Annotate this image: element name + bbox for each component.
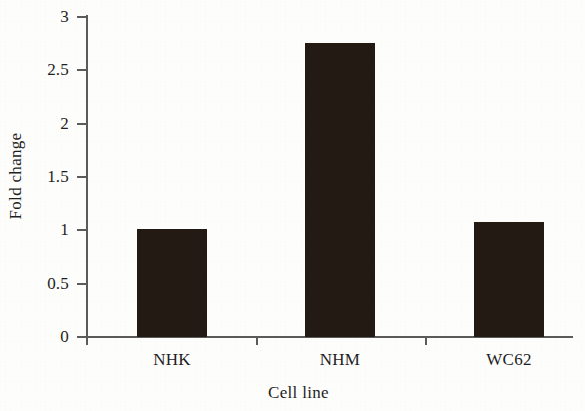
x-axis-title: Cell line: [6, 383, 585, 403]
bar-nhk: [137, 229, 207, 337]
x-axis-label-nhk: NHK: [112, 350, 232, 370]
x-axis-label-nhm: NHM: [280, 350, 400, 370]
x-axis-label-wc62: WC62: [449, 350, 569, 370]
y-axis-tick-mark: [77, 69, 86, 71]
y-axis-line: [86, 15, 88, 345]
y-axis-tick-mark: [77, 283, 86, 285]
y-axis-tick-mark: [77, 16, 86, 18]
y-axis-tick-mark: [77, 123, 86, 125]
y-axis-title: Fold change: [6, 76, 26, 276]
x-axis-tick-1: [256, 336, 258, 345]
bar-wc62: [474, 222, 544, 337]
y-axis-tick-label: 0.5: [11, 275, 69, 292]
bar-nhm: [305, 43, 375, 337]
bar-chart-figure: 32.521.510.50 NHKNHMWC62 Fold change Cel…: [0, 0, 585, 411]
y-axis-tick-label: 0: [11, 328, 69, 345]
y-axis-tick-mark: [77, 176, 86, 178]
y-axis-tick-mark: [77, 229, 86, 231]
y-axis-tick-label: 3: [11, 8, 69, 25]
x-axis-tick-2: [425, 336, 427, 345]
